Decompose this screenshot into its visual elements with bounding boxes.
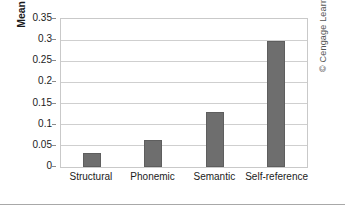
- y-axis-tick-label: 0.2: [38, 75, 52, 87]
- x-axis-tick-label: Phonemic: [122, 170, 184, 183]
- bar[interactable]: [144, 140, 162, 167]
- bottom-divider: [0, 204, 345, 205]
- y-axis-tick-label: 0.05: [33, 139, 52, 151]
- y-axis-tick-mark: [52, 103, 56, 104]
- y-axis-tick-mark: [52, 166, 56, 167]
- x-axis-tick-label: Self-reference: [245, 170, 308, 183]
- y-axis-tick-label: 0.3: [38, 33, 52, 45]
- y-axis-tick-label: 0.35: [33, 12, 52, 24]
- y-axis-tick-mark: [52, 145, 56, 146]
- x-axis-tick-label: Structural: [60, 170, 122, 183]
- plot-area: [60, 18, 308, 168]
- y-axis-title: Mean adjusted recall: [14, 0, 28, 42]
- bar[interactable]: [267, 41, 285, 167]
- y-axis-tick-mark: [52, 124, 56, 125]
- y-axis-tick-labels: 00.050.10.150.20.250.30.35: [30, 12, 56, 174]
- bar-series: [61, 19, 307, 167]
- y-axis-tick-label: 0: [46, 160, 52, 172]
- x-axis-tick-labels: StructuralPhonemicSemanticSelf-reference: [60, 170, 308, 183]
- x-axis-tick-label: Semantic: [183, 170, 245, 183]
- y-axis-tick-label: 0.1: [38, 118, 52, 130]
- y-axis-tick-label: 0.15: [33, 97, 52, 109]
- bar-slot: [184, 19, 246, 167]
- bar[interactable]: [83, 153, 101, 167]
- y-axis-tick-mark: [52, 39, 56, 40]
- chart-figure: Mean adjusted recall 00.050.10.150.20.25…: [0, 0, 345, 213]
- bar[interactable]: [206, 112, 224, 167]
- y-axis-tick-mark: [52, 18, 56, 19]
- y-axis-tick-label: 0.25: [33, 54, 52, 66]
- bar-slot: [61, 19, 123, 167]
- bar-slot: [246, 19, 308, 167]
- bar-slot: [123, 19, 185, 167]
- copyright-credit: © Cengage Learning 2013: [316, 0, 330, 72]
- y-axis-tick-mark: [52, 60, 56, 61]
- y-axis-tick-mark: [52, 81, 56, 82]
